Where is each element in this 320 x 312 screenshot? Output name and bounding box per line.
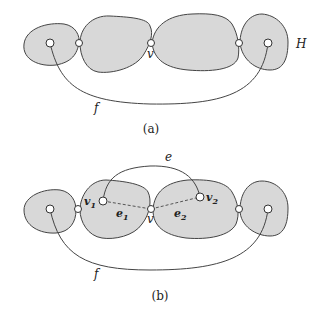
cut-node-v [148, 40, 155, 47]
node-right [264, 205, 272, 213]
caption-b: (b) [151, 289, 168, 303]
label-v: v [147, 47, 154, 61]
label-e: e [165, 150, 172, 164]
panel-a: v H f (a) [24, 14, 307, 136]
node-left [46, 39, 54, 47]
node-left [46, 205, 54, 213]
node-right [264, 39, 272, 47]
label-f: f [93, 267, 101, 281]
block-3 [153, 180, 238, 239]
cut-node-3 [236, 206, 243, 213]
label-H: H [295, 37, 307, 51]
cut-node-1 [76, 40, 83, 47]
node-v1 [99, 197, 107, 205]
block-2 [80, 16, 152, 72]
label-f: f [93, 101, 101, 115]
cut-node-3 [236, 40, 243, 47]
cut-node-1 [75, 206, 82, 213]
node-v2 [196, 193, 204, 201]
caption-a: (a) [143, 122, 160, 136]
label-v: v [147, 212, 154, 226]
panel-b: v1 v2 e1 e2 v e f (b) [24, 150, 288, 303]
block-3 [152, 14, 239, 71]
block-chain-diagram: v H f (a) v1 v2 e1 e2 v e f (b) [0, 0, 320, 312]
